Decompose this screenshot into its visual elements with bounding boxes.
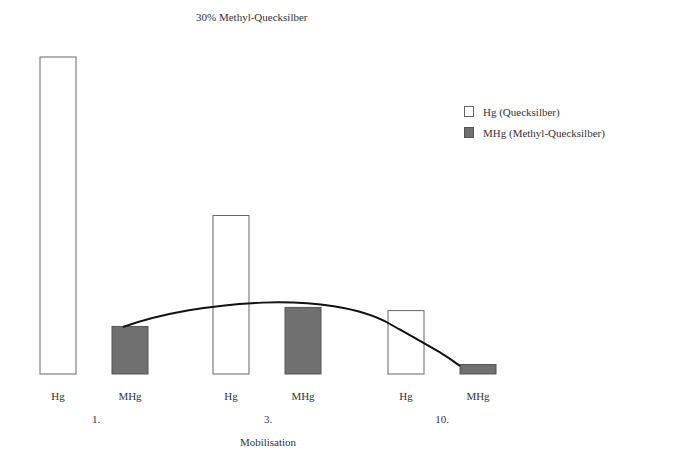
bar-hg-2: [213, 216, 249, 375]
bar-mhg-2: [285, 307, 321, 374]
bar-mhg-1: [112, 326, 148, 374]
bar-mhg-3: [460, 364, 496, 374]
legend-label-mhg: MHg (Methyl-Quecksilber): [483, 127, 605, 139]
legend-item-mhg: MHg (Methyl-Quecksilber): [464, 122, 605, 143]
legend: Hg (Quecksilber) MHg (Methyl-Quecksilber…: [464, 101, 605, 143]
bar-label-hg: Hg: [51, 390, 64, 402]
x-axis-title: Mobilisation: [240, 436, 296, 448]
category-label: 10.: [435, 413, 449, 425]
bar-label-mhg: MHg: [118, 390, 141, 402]
bar-label-mhg: MHg: [291, 390, 314, 402]
legend-item-hg: Hg (Quecksilber): [464, 101, 605, 122]
bar-label-mhg: MHg: [466, 390, 489, 402]
bar-hg-3: [388, 311, 424, 374]
bar-label-hg: Hg: [224, 390, 237, 402]
legend-label-hg: Hg (Quecksilber): [483, 106, 560, 118]
legend-swatch-mhg: [464, 127, 474, 138]
legend-swatch-hg: [464, 106, 474, 117]
category-label: 3.: [264, 413, 272, 425]
bar-label-hg: Hg: [399, 390, 412, 402]
bars-group: [40, 57, 496, 374]
category-label: 1.: [92, 413, 100, 425]
plot-area: [0, 0, 681, 471]
bar-hg-1: [40, 57, 76, 374]
